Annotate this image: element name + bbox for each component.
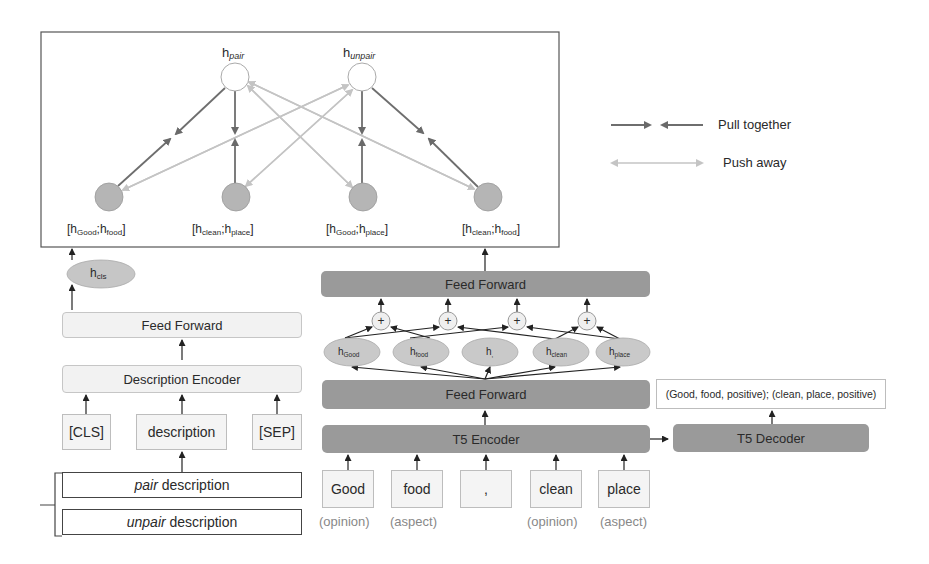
left-feed-forward: Feed Forward — [62, 312, 302, 338]
role-place: (aspect) — [600, 514, 647, 529]
node-good-place — [349, 183, 377, 211]
contrastive-panel — [41, 32, 559, 247]
svg-text:+: + — [444, 314, 451, 328]
description-encoder: Description Encoder — [62, 365, 302, 393]
input-token-clean: clean — [530, 470, 582, 508]
token-description: description — [136, 414, 227, 450]
unpair-description-box: unpair description — [62, 509, 302, 535]
h-unpair-node — [348, 63, 376, 91]
pair-description-box: pair description — [62, 472, 302, 498]
feed-forward-bottom: Feed Forward — [322, 380, 650, 409]
role-food: (aspect) — [390, 514, 437, 529]
token-cls: [CLS] — [62, 414, 111, 450]
description-bracket — [40, 473, 62, 536]
input-token-place: place — [598, 470, 650, 508]
t5-encoder: T5 Encoder — [322, 425, 650, 453]
svg-text:+: + — [583, 314, 590, 328]
input-token-food: food — [391, 470, 443, 508]
plus-nodes: + + + + — [372, 312, 596, 330]
svg-text:+: + — [513, 314, 520, 328]
input-token-good: Good — [322, 470, 374, 508]
token-sep: [SEP] — [252, 414, 302, 450]
legend-pull-label: Pull together — [718, 117, 791, 132]
legend-push-label: Push away — [723, 155, 787, 170]
feed-forward-top: Feed Forward — [321, 271, 650, 297]
input-token-comma: , — [460, 470, 512, 508]
hidden-state-nodes: hGood hfood h, hclean hplace — [324, 338, 650, 366]
decoder-output: (Good, food, positive); (clean, place, p… — [656, 379, 886, 409]
node-clean-place — [222, 183, 250, 211]
node-good-food — [95, 183, 123, 211]
svg-text:+: + — [377, 314, 384, 328]
role-clean: (opinion) — [527, 514, 578, 529]
t5-decoder: T5 Decoder — [673, 424, 869, 452]
h-pair-node — [221, 63, 249, 91]
node-clean-food — [474, 183, 502, 211]
role-good: (opinion) — [319, 514, 370, 529]
